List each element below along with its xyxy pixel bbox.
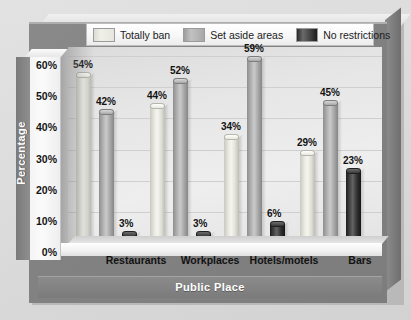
x-axis-category-labels: RestaurantsWorkplacesHotels/motelsBars — [60, 254, 382, 271]
bar-hotels-motels-set-aside-areas[interactable] — [247, 59, 262, 243]
legend-swatch-no-restrictions-icon — [296, 28, 318, 42]
x-axis-title-band: Public Place — [38, 276, 382, 298]
bar-body — [346, 171, 361, 243]
gridline-60 — [68, 56, 382, 57]
bar-value-label: 52% — [170, 65, 190, 76]
frame-right-face — [385, 7, 401, 292]
bar-cap — [323, 100, 338, 106]
bar-value-label: 3% — [119, 218, 133, 229]
bar-restaurants-set-aside-areas[interactable] — [99, 112, 114, 243]
bar-body — [323, 103, 338, 243]
bar-cap — [173, 78, 188, 84]
bar-body — [300, 153, 315, 243]
bar-bars-no-restrictions[interactable] — [346, 171, 361, 243]
bar-body — [150, 106, 165, 243]
y-axis-panel: 60%50%40%30%20%10%0% — [30, 57, 61, 260]
bar-cap — [99, 109, 114, 115]
bar-bars-set-aside-areas[interactable] — [323, 103, 338, 243]
plot-area: 54%44%34%29%42%52%59%45%3%3%6%23% — [68, 47, 382, 243]
bar-body — [224, 137, 239, 243]
y-tick-0: 0% — [25, 246, 57, 258]
bar-value-label: 45% — [320, 87, 340, 98]
bar-body — [247, 59, 262, 243]
bar-cap — [150, 103, 165, 109]
bar-value-label: 29% — [297, 137, 317, 148]
bar-value-label: 44% — [147, 90, 167, 101]
bar-cap — [270, 221, 285, 227]
bar-value-label: 23% — [343, 155, 363, 166]
x-axis-title: Public Place — [175, 281, 245, 293]
bar-value-label: 34% — [221, 121, 241, 132]
bar-value-label: 6% — [267, 208, 281, 219]
legend-label-no-restrictions: No restrictions — [323, 29, 390, 41]
legend-label-totally-ban: Totally ban — [120, 29, 170, 41]
bar-cap — [346, 168, 361, 174]
legend-swatch-totally-ban-icon — [93, 28, 115, 42]
legend-swatch-set-aside-areas-icon — [183, 28, 205, 42]
bar-body — [99, 112, 114, 243]
legend-label-set-aside-areas: Set aside areas — [210, 29, 283, 41]
bar-hotels-motels-totally-ban[interactable] — [224, 137, 239, 243]
bar-cap — [247, 56, 262, 62]
bar-value-label: 3% — [193, 218, 207, 229]
bar-cap — [224, 134, 239, 140]
legend-item-totally-ban[interactable]: Totally ban — [93, 28, 170, 42]
bar-cap — [300, 150, 315, 156]
bar-value-label: 42% — [96, 96, 116, 107]
chart-figure: Totally ban Set aside areas No restricti… — [0, 0, 411, 320]
y-tick-60: 60% — [25, 59, 57, 71]
bar-workplaces-set-aside-areas[interactable] — [173, 81, 188, 243]
y-axis-title: Percentage — [15, 78, 31, 228]
bar-workplaces-totally-ban[interactable] — [150, 106, 165, 243]
chart-legend: Totally ban Set aside areas No restricti… — [86, 23, 374, 46]
bar-body — [173, 81, 188, 243]
x-category-bars: Bars — [315, 254, 405, 266]
x-axis-band-highlight — [38, 276, 382, 277]
bar-value-label: 59% — [244, 43, 264, 54]
legend-item-no-restrictions[interactable]: No restrictions — [296, 28, 390, 42]
legend-item-set-aside-areas[interactable]: Set aside areas — [183, 28, 283, 42]
plot-wall-shading — [68, 47, 94, 243]
bar-bars-totally-ban[interactable] — [300, 153, 315, 243]
